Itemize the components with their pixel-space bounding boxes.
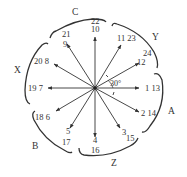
arrow-3-15 (95, 88, 120, 128)
slot-label-5: 5 (66, 126, 70, 136)
angle-label: 30° (110, 79, 121, 88)
arc-X (25, 43, 48, 104)
slot-label-1-13: 1 13 (145, 83, 160, 93)
arrow-9-21 (67, 44, 95, 88)
slot-label-10: 10 (91, 24, 100, 34)
arrow-8-20 (54, 64, 95, 88)
slot-label-21: 21 (62, 29, 71, 39)
slot-label-20-8: 20 8 (34, 56, 49, 66)
phase-label-B: B (32, 141, 38, 151)
phase-label-X: X (14, 65, 21, 75)
center-point (93, 86, 97, 90)
slot-label-19-7: 19 7 (28, 83, 43, 93)
slot-label-9: 9 (63, 39, 67, 49)
phase-label-Y: Y (152, 32, 159, 42)
slot-label-18-6: 18 6 (35, 112, 50, 122)
slot-label-2-14: 2 14 (141, 108, 157, 118)
angle-annotation: 30° (106, 75, 121, 95)
phasor-arrows (48, 37, 139, 137)
phase-label-Z: Z (111, 158, 117, 168)
slot-label-4: 4 (93, 135, 98, 145)
arrow-6-18 (56, 88, 95, 111)
phase-label-A: A (168, 106, 175, 116)
slot-label-11-23: 11 23 (117, 33, 136, 43)
arrow-2-14 (95, 88, 139, 112)
arrow-5-17 (70, 88, 95, 128)
slot-label-16: 16 (91, 145, 100, 155)
slot-label-12: 12 (137, 57, 146, 67)
slot-label-15: 15 (126, 133, 135, 143)
phase-label-C: C (72, 7, 78, 17)
phasor-star-diagram: 30° 1 13 2 14 3 15 4 16 5 17 18 6 19 7 2… (0, 0, 187, 177)
slot-label-17: 17 (62, 137, 71, 147)
arc-Y (112, 23, 158, 68)
